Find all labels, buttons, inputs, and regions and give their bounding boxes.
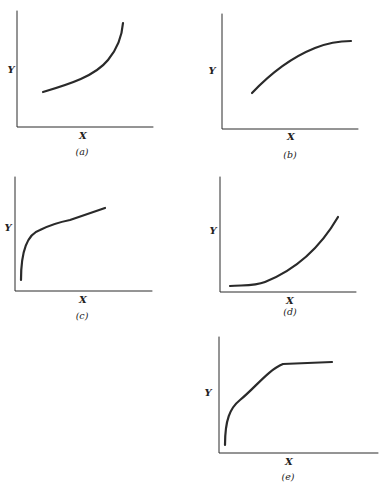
panel-d-x-label: X xyxy=(286,296,294,306)
panel-b xyxy=(222,14,358,129)
panel-c-axes xyxy=(15,177,152,291)
panel-a xyxy=(17,11,153,127)
panel-b-y-label: Y xyxy=(208,66,215,76)
panel-e-caption: (e) xyxy=(281,472,294,482)
panel-e xyxy=(219,337,378,453)
panel-a-axes xyxy=(17,11,153,127)
figure-canvas xyxy=(0,0,390,486)
panel-b-x-label: X xyxy=(287,132,295,142)
panel-b-axes xyxy=(222,14,358,129)
panel-c xyxy=(15,177,152,291)
panel-c-curve xyxy=(21,208,105,280)
panel-b-curve xyxy=(252,41,351,93)
panel-a-curve xyxy=(43,23,123,92)
panel-d xyxy=(220,177,356,292)
panel-d-curve xyxy=(230,217,338,286)
panel-d-caption: (d) xyxy=(283,307,297,317)
panel-e-axes xyxy=(219,337,378,453)
panel-c-y-label: Y xyxy=(4,223,11,233)
panel-d-axes xyxy=(220,177,356,292)
panel-e-x-label: X xyxy=(285,457,293,467)
panel-a-x-label: X xyxy=(79,131,87,141)
panel-a-caption: (a) xyxy=(75,147,88,157)
panel-d-y-label: Y xyxy=(209,226,216,236)
panel-c-x-label: X xyxy=(79,295,87,305)
panel-e-curve xyxy=(225,362,332,445)
panel-e-y-label: Y xyxy=(204,388,211,398)
panel-a-y-label: Y xyxy=(7,65,14,75)
panel-c-caption: (c) xyxy=(76,311,89,321)
panel-b-caption: (b) xyxy=(283,150,297,160)
